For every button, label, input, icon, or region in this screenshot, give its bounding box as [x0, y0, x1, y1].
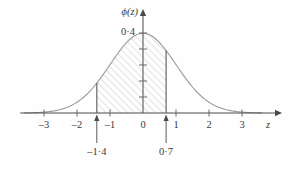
- x-tick-label-5: 2: [206, 119, 211, 130]
- x-tick-label-1: –2: [71, 119, 83, 130]
- x-tick-label-3: 0: [140, 119, 145, 130]
- y-axis-label: ϕ(z): [121, 6, 138, 18]
- lower-bound-arrowhead: [94, 115, 99, 122]
- y-tick-label-0: 0·4: [121, 26, 136, 37]
- x-axis-arrowhead: [275, 110, 282, 116]
- chart-canvas: –3–2–10123 z 0·4 ϕ(z) –1·40·7: [0, 0, 290, 169]
- upper-bound-label: 0·7: [159, 146, 173, 157]
- x-axis-tick-labels: –3–2–10123: [38, 119, 245, 130]
- lower-bound-label: –1·4: [86, 146, 107, 157]
- upper-bound-arrowhead: [164, 115, 169, 122]
- y-axis-tick-labels: 0·4: [121, 26, 136, 37]
- x-tick-label-0: –3: [38, 119, 50, 130]
- shaded-region: [97, 33, 166, 113]
- x-axis-label: z: [265, 119, 270, 130]
- normal-distribution-chart: –3–2–10123 z 0·4 ϕ(z) –1·40·7: [0, 0, 290, 169]
- x-axis-group: –3–2–10123 z: [20, 110, 282, 131]
- shaded-area-group: [97, 33, 166, 113]
- y-axis-arrowhead: [140, 9, 146, 16]
- x-tick-label-4: 1: [173, 119, 178, 130]
- x-tick-label-6: 3: [239, 119, 244, 130]
- x-tick-label-2: –1: [104, 119, 116, 130]
